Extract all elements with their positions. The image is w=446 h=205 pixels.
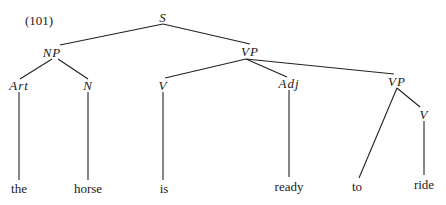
node-art: Art	[9, 79, 29, 92]
leaf-horse: horse	[74, 182, 102, 195]
leaf-to: to	[352, 180, 362, 193]
leaf-the: the	[11, 182, 27, 195]
leaf-ride: ride	[414, 178, 434, 191]
tree-edges	[0, 0, 446, 205]
edge-vp2-v2	[397, 88, 420, 107]
node-v: V	[159, 79, 168, 92]
leaf-is: is	[160, 182, 169, 195]
edge-np-art	[20, 59, 52, 79]
node-adj: Adj	[278, 77, 299, 90]
node-n: N	[83, 79, 93, 92]
node-vp: VP	[241, 45, 259, 58]
edge-s-np	[60, 24, 163, 45]
node-vp-embedded: VP	[388, 75, 406, 88]
edge-vp1-vp2	[246, 59, 394, 74]
node-v-embedded: V	[420, 108, 429, 121]
edge-vp1-adj	[246, 59, 287, 77]
leaf-ready: ready	[275, 180, 304, 193]
edge-vp1-v1	[165, 59, 246, 78]
edge-s-vp1	[163, 24, 250, 44]
node-s: S	[159, 11, 167, 24]
example-number: (101)	[25, 14, 53, 27]
edge-np-n	[58, 59, 88, 79]
edge-vp2-to	[359, 88, 397, 178]
syntax-tree-diagram: (101) S NP VP Art N V Adj VP V the horse…	[0, 0, 446, 205]
node-np: NP	[43, 46, 62, 59]
